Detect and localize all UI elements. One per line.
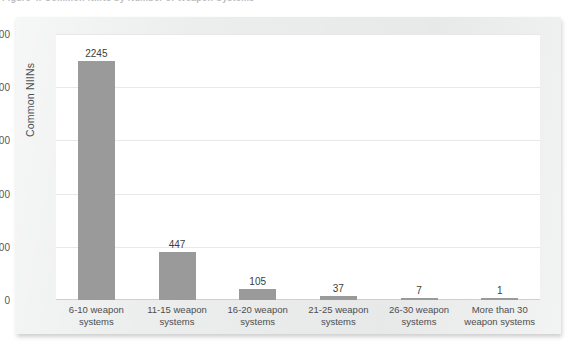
bar[interactable] bbox=[239, 289, 276, 300]
bar-value-label: 105 bbox=[249, 277, 266, 287]
bar-value-label: 37 bbox=[333, 284, 344, 294]
bar[interactable] bbox=[159, 252, 196, 300]
y-axis-tick-label: 2,500 bbox=[0, 29, 10, 40]
bar-series: 22454471053771 bbox=[56, 34, 540, 300]
figure-caption: Figure 4: Common NIINs by Number of Weap… bbox=[2, 0, 254, 3]
bar[interactable] bbox=[320, 296, 357, 300]
y-axis-tick-label: 1,000 bbox=[0, 188, 10, 199]
y-axis-title: Common NIINs bbox=[24, 63, 36, 137]
x-axis-category-label: 11-15 weapon systems bbox=[137, 304, 218, 328]
y-axis-tick-label: 0 bbox=[0, 295, 10, 306]
bar-slot: 105 bbox=[217, 34, 298, 300]
bar-slot: 7 bbox=[379, 34, 460, 300]
y-axis-tick-label: 2,000 bbox=[0, 82, 10, 93]
bar-value-label: 1 bbox=[497, 286, 503, 296]
y-axis-tick-label: 500 bbox=[0, 241, 10, 252]
x-axis-category-label: 21-25 weapon systems bbox=[298, 304, 379, 328]
bar[interactable] bbox=[481, 298, 518, 300]
bar[interactable] bbox=[401, 298, 438, 300]
x-axis-category-label: 6-10 weapon systems bbox=[56, 304, 137, 328]
y-axis-tick-labels: 05001,0001,5002,0002,500 bbox=[0, 34, 10, 300]
x-axis-category-label: 16-20 weapon systems bbox=[217, 304, 298, 328]
y-axis-tick-label: 1,500 bbox=[0, 135, 10, 146]
bar-slot: 447 bbox=[137, 34, 218, 300]
figure-caption-strip: Figure 4: Common NIINs by Number of Weap… bbox=[0, 0, 585, 14]
bar-slot: 2245 bbox=[56, 34, 137, 300]
plot-area: 22454471053771 bbox=[56, 34, 540, 300]
bar-value-label: 2245 bbox=[85, 49, 107, 59]
bar-slot: 37 bbox=[298, 34, 379, 300]
bar[interactable] bbox=[78, 61, 115, 300]
figure-card: Common NIINs 05001,0001,5002,0002,500 22… bbox=[16, 17, 561, 334]
bar-value-label: 447 bbox=[169, 240, 186, 250]
x-axis-category-label: More than 30 weapon systems bbox=[459, 304, 540, 328]
x-axis-category-labels: 6-10 weapon systems11-15 weapon systems1… bbox=[56, 304, 540, 328]
bar-slot: 1 bbox=[459, 34, 540, 300]
bar-value-label: 7 bbox=[416, 286, 422, 296]
x-axis-category-label: 26-30 weapon systems bbox=[379, 304, 460, 328]
